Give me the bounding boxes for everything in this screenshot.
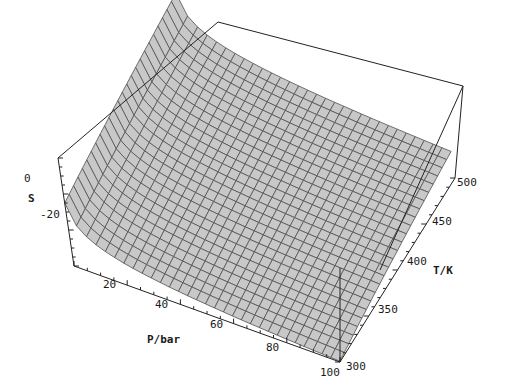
y-tick-350: 350 bbox=[378, 303, 398, 316]
x-tick-80: 80 bbox=[266, 341, 279, 354]
surface-plot bbox=[0, 0, 508, 388]
x-axis-title: P/bar bbox=[147, 333, 180, 346]
z-tick-minus20: -20 bbox=[40, 208, 60, 221]
y-tick-450: 450 bbox=[432, 215, 452, 228]
y-axis-title: T/K bbox=[433, 264, 453, 277]
y-tick-400: 400 bbox=[407, 255, 427, 268]
z-tick-0: 0 bbox=[24, 172, 31, 185]
x-tick-20: 20 bbox=[103, 278, 116, 291]
y-tick-300: 300 bbox=[346, 360, 366, 373]
x-tick-60: 60 bbox=[210, 318, 223, 331]
x-tick-100: 100 bbox=[320, 366, 340, 379]
x-tick-40: 40 bbox=[155, 298, 168, 311]
y-tick-500: 500 bbox=[457, 176, 477, 189]
z-axis-title: S bbox=[28, 192, 35, 205]
